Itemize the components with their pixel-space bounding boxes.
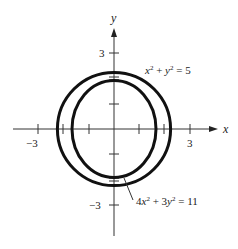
circle-equation-label: x2 + y2 = 5 — [144, 64, 191, 76]
x-axis-label: x — [222, 122, 229, 136]
x-tick-label-neg3: −3 — [26, 137, 38, 149]
y-axis-label: y — [110, 11, 117, 25]
graph-figure: x y −3 3 3 −3 x2 + y2 = 5 4x2 + 3y2 = 11 — [0, 0, 238, 249]
ellipse-equation-label: 4x2 + 3y2 = 11 — [136, 195, 198, 207]
x-tick-label-3: 3 — [187, 137, 193, 149]
x-axis-arrow-icon — [209, 126, 218, 132]
y-tick-label-3: 3 — [99, 47, 105, 59]
graph-svg: x y −3 3 3 −3 x2 + y2 = 5 4x2 + 3y2 = 11 — [0, 0, 238, 249]
y-tick-label-neg3: −3 — [89, 199, 101, 211]
y-axis-arrow-icon — [111, 28, 117, 37]
